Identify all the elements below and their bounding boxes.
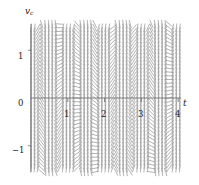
slope-field-figure: vc t 1 0 −1 1 2 3 4 [0,0,199,185]
x-tick-label-4: 4 [175,110,180,119]
y-tick-label-1: 1 [18,52,23,61]
x-tick-label-1: 1 [64,110,69,119]
x-axis-label: t [183,99,187,108]
y-tick-label-0: 0 [18,99,23,108]
x-tick-label-3: 3 [138,110,143,119]
y-axis-label: vc [25,7,33,16]
plot-canvas [0,0,199,185]
x-tick-label-2: 2 [101,110,106,119]
y-tick-label-neg-1: −1 [12,146,25,155]
